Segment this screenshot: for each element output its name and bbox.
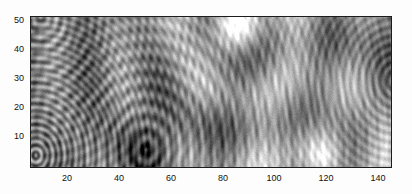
y-tick-label-50: 50 (4, 16, 24, 25)
figure-canvas: 50 40 30 20 10 20 40 60 80 100 120 140 (0, 0, 412, 194)
x-tick-label-80: 80 (211, 174, 235, 183)
x-tick-label-120: 120 (314, 174, 338, 183)
plot-area (30, 16, 392, 168)
x-tick-label-100: 100 (262, 174, 286, 183)
x-tick-label-20: 20 (55, 174, 79, 183)
y-tick-label-20: 20 (4, 103, 24, 112)
y-tick-label-10: 10 (4, 132, 24, 141)
x-tick-label-40: 40 (107, 174, 131, 183)
y-tick-label-30: 30 (4, 74, 24, 83)
x-tick-label-60: 60 (159, 174, 183, 183)
y-tick-label-40: 40 (4, 45, 24, 54)
interference-field-image (31, 17, 391, 167)
x-tick-label-140: 140 (366, 174, 390, 183)
